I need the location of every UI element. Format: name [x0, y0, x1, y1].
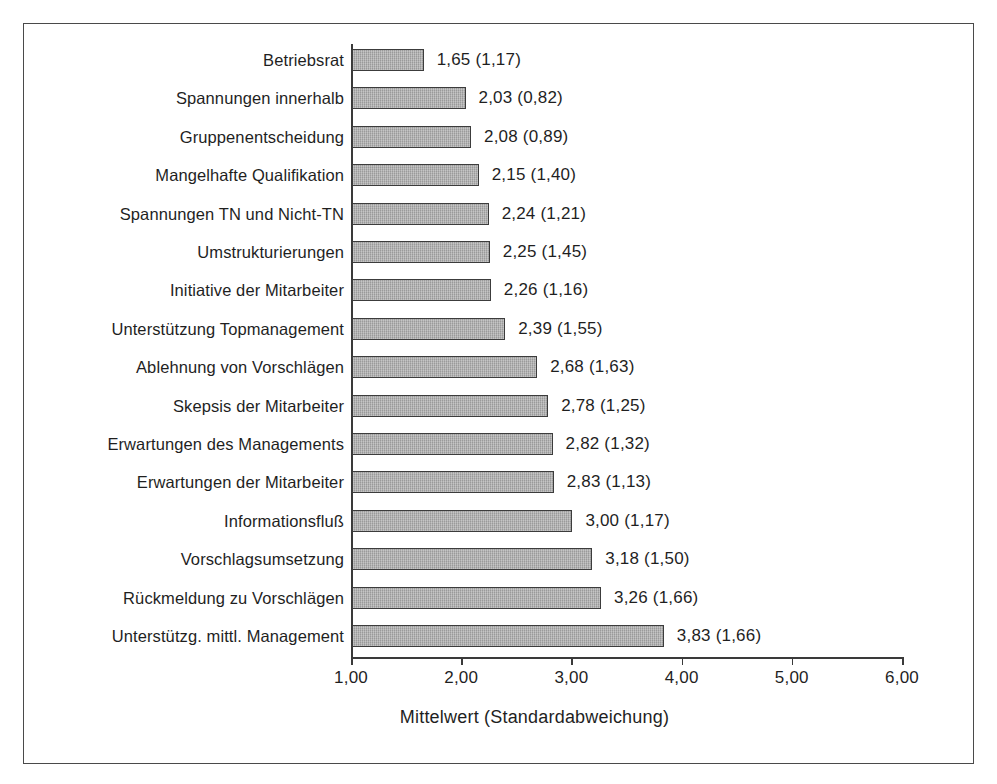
bar-value-label: 2,08 (0,89)	[484, 127, 568, 147]
bar-value-label: 1,65 (1,17)	[437, 50, 521, 70]
x-axis-tick-label: 4,00	[665, 668, 699, 688]
bar-value-label: 3,00 (1,17)	[585, 511, 669, 531]
bar	[352, 126, 471, 148]
category-label: Initiative der Mitarbeiter	[170, 281, 344, 300]
x-axis-title-text: Mittelwert (Standardabweichung)	[400, 707, 669, 728]
bar-row: Initiative der Mitarbeiter2,26 (1,16)	[0, 273, 997, 307]
bar	[352, 49, 424, 71]
category-label: Spannungen TN und Nicht-TN	[120, 204, 344, 223]
bar	[352, 318, 505, 340]
bar	[352, 241, 490, 263]
bar-row: Spannungen innerhalb2,03 (0,82)	[0, 81, 997, 115]
bar-value-label: 2,25 (1,45)	[503, 242, 587, 262]
bar-row: Rückmeldung zu Vorschlägen3,26 (1,66)	[0, 581, 997, 615]
bar-row: Ablehnung von Vorschlägen2,68 (1,63)	[0, 350, 997, 384]
category-label: Vorschlagsumsetzung	[181, 550, 344, 569]
bar-row: Informationsfluß3,00 (1,17)	[0, 504, 997, 538]
bar-row: Umstrukturierungen2,25 (1,45)	[0, 235, 997, 269]
category-label: Unterstützg. mittl. Management	[112, 627, 344, 646]
bar-row: Spannungen TN und Nicht-TN2,24 (1,21)	[0, 197, 997, 231]
bar	[352, 203, 489, 225]
category-label: Erwartungen der Mitarbeiter	[137, 473, 344, 492]
bar	[352, 356, 537, 378]
bar	[352, 395, 548, 417]
x-axis-title: Mittelwert (Standardabweichung)	[0, 707, 997, 728]
bar-chart-plot: Betriebsrat1,65 (1,17)Spannungen innerha…	[0, 0, 997, 784]
bar-value-label: 2,03 (0,82)	[479, 88, 563, 108]
x-axis-tick-label: 1,00	[334, 668, 368, 688]
category-label: Erwartungen des Managements	[107, 435, 344, 454]
category-label: Mangelhafte Qualifikation	[155, 166, 344, 185]
bar-row: Unterstützg. mittl. Management3,83 (1,66…	[0, 619, 997, 653]
x-axis-tick	[461, 657, 463, 665]
x-axis-tick	[792, 657, 794, 665]
bar	[352, 587, 601, 609]
bar-row: Vorschlagsumsetzung3,18 (1,50)	[0, 542, 997, 576]
bar-row: Betriebsrat1,65 (1,17)	[0, 43, 997, 77]
bar-row: Skepsis der Mitarbeiter2,78 (1,25)	[0, 389, 997, 423]
bar-value-label: 2,78 (1,25)	[561, 396, 645, 416]
bar	[352, 433, 553, 455]
category-label: Spannungen innerhalb	[176, 89, 344, 108]
x-axis-tick	[571, 657, 573, 665]
category-label: Rückmeldung zu Vorschlägen	[123, 588, 344, 607]
x-axis-tick	[902, 657, 904, 665]
bar-value-label: 3,26 (1,66)	[614, 588, 698, 608]
x-axis-line	[351, 657, 903, 659]
bar-value-label: 2,83 (1,13)	[567, 472, 651, 492]
x-axis-tick	[351, 657, 353, 665]
bar	[352, 279, 491, 301]
category-label: Informationsfluß	[224, 511, 344, 530]
x-axis-tick-label: 5,00	[775, 668, 809, 688]
bar	[352, 510, 572, 532]
x-axis-tick-label: 6,00	[885, 668, 919, 688]
bar-value-label: 2,15 (1,40)	[492, 165, 576, 185]
bar	[352, 471, 554, 493]
bar-row: Mangelhafte Qualifikation2,15 (1,40)	[0, 158, 997, 192]
bar-value-label: 2,26 (1,16)	[504, 280, 588, 300]
bar-value-label: 3,18 (1,50)	[605, 549, 689, 569]
bar-value-label: 2,24 (1,21)	[502, 204, 586, 224]
bar-row: Unterstützung Topmanagement2,39 (1,55)	[0, 312, 997, 346]
bar-row: Erwartungen des Managements2,82 (1,32)	[0, 427, 997, 461]
bar-value-label: 2,82 (1,32)	[566, 434, 650, 454]
bar	[352, 548, 592, 570]
x-axis-tick	[682, 657, 684, 665]
bar-value-label: 3,83 (1,66)	[677, 626, 761, 646]
category-label: Ablehnung von Vorschlägen	[136, 358, 344, 377]
category-label: Gruppenentscheidung	[180, 127, 344, 146]
bar	[352, 87, 466, 109]
category-label: Umstrukturierungen	[197, 243, 344, 262]
bar	[352, 164, 479, 186]
category-label: Skepsis der Mitarbeiter	[173, 396, 344, 415]
bar-row: Erwartungen der Mitarbeiter2,83 (1,13)	[0, 465, 997, 499]
bar-value-label: 2,68 (1,63)	[550, 357, 634, 377]
bar-value-label: 2,39 (1,55)	[518, 319, 602, 339]
bar-row: Gruppenentscheidung2,08 (0,89)	[0, 120, 997, 154]
category-label: Unterstützung Topmanagement	[111, 319, 344, 338]
x-axis-tick-label: 3,00	[554, 668, 588, 688]
bar	[352, 625, 664, 647]
x-axis-tick-label: 2,00	[444, 668, 478, 688]
category-label: Betriebsrat	[263, 51, 344, 70]
